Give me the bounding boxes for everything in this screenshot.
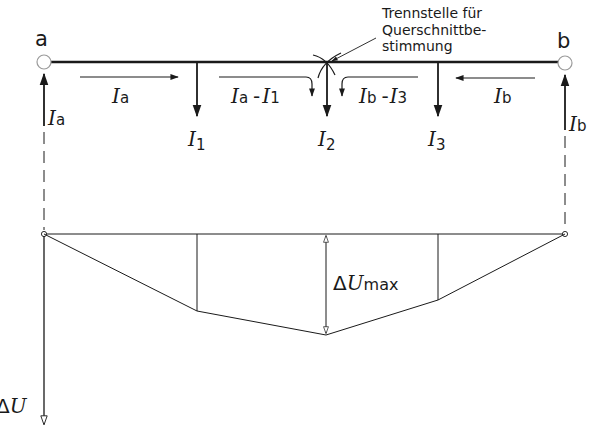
load-3: I3	[427, 62, 445, 154]
voltage-drop-curve	[44, 234, 565, 335]
feed-current-b-label: Ib	[568, 112, 586, 136]
node-a: a	[35, 27, 51, 69]
separation-annotation: Trennstelle für Querschnittbe- stimmung	[332, 5, 486, 61]
max-drop-indicator: ΔUmax	[326, 236, 398, 333]
node-b: b	[557, 29, 572, 70]
segment-current-a: Ia	[80, 77, 178, 108]
load-2-label: I2	[317, 127, 335, 154]
segment-current-a-minus-1: Ia-I1	[219, 77, 312, 108]
load-3-label: I3	[427, 127, 445, 154]
annotation-line-1: Trennstelle für	[381, 5, 482, 21]
node-b-label: b	[557, 29, 570, 53]
load-1: I1	[187, 62, 205, 154]
feed-current-a: Ia	[44, 74, 65, 130]
max-drop-label: ΔUmax	[333, 271, 398, 295]
voltage-drop-diagram: a b Ia Ib Ia Ia-I1 Ib-I3 Ib I1 I2	[0, 0, 591, 436]
load-2: I2	[317, 62, 335, 154]
segment-current-b: Ib	[456, 78, 535, 108]
segment-current-b-minus-3: Ib-I3	[342, 77, 418, 108]
voltage-drop-axis: ΔU	[0, 236, 44, 424]
segment-current-a-minus-1-label: Ia-I1	[230, 84, 280, 108]
annotation-line-3: stimmung	[382, 38, 453, 54]
load-1-label: I1	[187, 127, 205, 154]
segment-current-a-label: Ia	[111, 84, 129, 108]
segment-current-b-label: Ib	[493, 84, 511, 108]
voltage-drop-plot: ΔUmax ΔU	[0, 231, 568, 424]
feed-current-b: Ib	[565, 75, 586, 136]
voltage-axis-label: ΔU	[0, 394, 28, 418]
node-a-label: a	[35, 27, 48, 51]
annotation-line-2: Querschnittbe-	[382, 22, 486, 38]
feed-current-a-label: Ia	[47, 106, 65, 130]
segment-current-b-minus-3-label: Ib-I3	[358, 84, 407, 108]
